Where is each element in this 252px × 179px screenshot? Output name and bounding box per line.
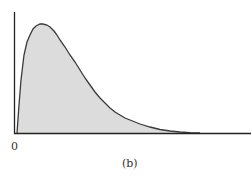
caption-label: (b) xyxy=(122,158,138,169)
density-chart xyxy=(0,0,252,179)
origin-label: 0 xyxy=(11,141,18,152)
shaded-area xyxy=(17,24,200,133)
